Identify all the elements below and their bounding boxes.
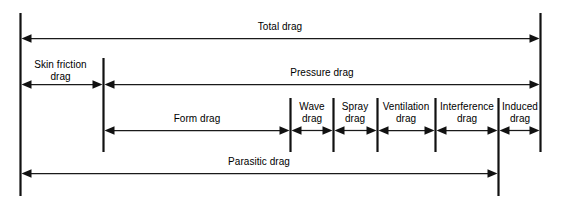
wave-drag-arrow bbox=[292, 126, 333, 135]
form-drag-arrow bbox=[105, 126, 290, 135]
label-skin-friction-drag: Skin friction drag bbox=[18, 59, 103, 82]
label-induced-line1: Induced bbox=[502, 101, 538, 112]
label-wave-drag: Wave drag bbox=[288, 101, 336, 124]
label-wave-line1: Wave bbox=[299, 101, 324, 112]
label-skin-friction-line1: Skin friction bbox=[34, 59, 86, 70]
label-ventilation-drag: Ventilation drag bbox=[375, 101, 437, 124]
label-induced-line2: drag bbox=[510, 113, 530, 124]
label-skin-friction-line2: drag bbox=[50, 71, 70, 82]
label-wave-line2: drag bbox=[302, 113, 322, 124]
parasitic-drag-arrow bbox=[22, 169, 498, 178]
total-drag-arrow bbox=[22, 34, 540, 43]
pressure-drag-arrow bbox=[105, 80, 540, 89]
label-spray-drag: Spray drag bbox=[331, 101, 379, 124]
spray-drag-arrow bbox=[335, 126, 377, 135]
label-ventilation-line2: drag bbox=[396, 113, 416, 124]
label-interference-line1: Interference bbox=[440, 101, 494, 112]
label-total-drag: Total drag bbox=[20, 21, 540, 33]
induced-drag-arrow bbox=[500, 126, 540, 135]
label-ventilation-line1: Ventilation bbox=[383, 101, 430, 112]
label-interference-drag: Interference drag bbox=[434, 101, 500, 124]
interference-drag-arrow bbox=[437, 126, 498, 135]
label-interference-line2: drag bbox=[457, 113, 477, 124]
label-pressure-drag: Pressure drag bbox=[104, 67, 540, 79]
drag-breakdown-diagram: Total drag Skin friction drag Pressure d… bbox=[0, 0, 565, 207]
label-spray-line2: drag bbox=[345, 113, 365, 124]
label-parasitic-drag: Parasitic drag bbox=[20, 156, 498, 168]
ventilation-drag-arrow bbox=[379, 126, 435, 135]
label-spray-line1: Spray bbox=[342, 101, 368, 112]
label-form-drag: Form drag bbox=[104, 113, 290, 125]
label-induced-drag: Induced drag bbox=[498, 101, 542, 124]
